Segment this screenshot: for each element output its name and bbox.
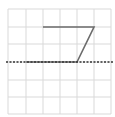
- diagram-canvas: [0, 0, 115, 117]
- grid-diagram: [0, 0, 115, 117]
